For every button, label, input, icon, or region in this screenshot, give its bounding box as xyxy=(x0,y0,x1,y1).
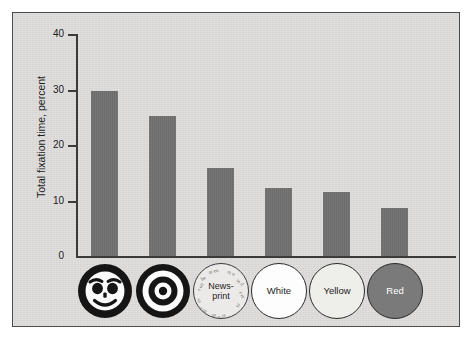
y-axis-line xyxy=(76,34,78,257)
y-tick-0: 0 xyxy=(13,256,76,258)
y-tick-label-10: 10 xyxy=(53,196,64,206)
category-icon-bullseye xyxy=(135,263,191,319)
white-label: White xyxy=(252,264,306,318)
bullseye-icon xyxy=(135,263,191,319)
category-icon-red: Red xyxy=(367,263,423,319)
newsprint-icon: at en rs o he in d t on a re es ni to as… xyxy=(193,263,249,319)
newsprint-label-line1: News- xyxy=(208,281,234,291)
newsprint-label-line2: print xyxy=(212,291,230,301)
chart-panel: Total fixation time, percent 40 30 20 10… xyxy=(12,12,460,327)
y-tick-40: 40 xyxy=(13,34,76,36)
face-icon xyxy=(77,263,133,319)
bar-red xyxy=(381,208,408,256)
bar-yellow xyxy=(323,192,350,256)
y-tick-10: 10 xyxy=(13,201,76,203)
y-tick-label-20: 20 xyxy=(53,140,64,150)
category-icon-white: White xyxy=(251,263,307,319)
bar-white xyxy=(265,188,292,256)
red-disc-icon: Red xyxy=(367,263,423,319)
y-tick-20: 20 xyxy=(13,145,76,147)
bar-newsprint xyxy=(207,168,234,256)
y-tick-label-0: 0 xyxy=(58,251,64,261)
bar-bullseye xyxy=(149,116,176,256)
figure: Total fixation time, percent 40 30 20 10… xyxy=(0,0,475,342)
bar-face xyxy=(91,91,118,256)
yellow-label: Yellow xyxy=(310,264,364,318)
y-axis-title: Total fixation time, percent xyxy=(35,42,47,232)
y-tick-label-40: 40 xyxy=(53,29,64,39)
category-icon-face xyxy=(77,263,133,319)
red-label: Red xyxy=(368,264,422,318)
plot-area: Total fixation time, percent 40 30 20 10… xyxy=(13,13,461,328)
category-icon-yellow: Yellow xyxy=(309,263,365,319)
y-tick-label-30: 30 xyxy=(53,85,64,95)
y-tick-30: 30 xyxy=(13,90,76,92)
yellow-disc-icon: Yellow xyxy=(309,263,365,319)
white-disc-icon: White xyxy=(251,263,307,319)
category-icon-newsprint: at en rs o he in d t on a re es ni to as… xyxy=(193,263,249,319)
newsprint-label: News- print xyxy=(194,264,248,318)
x-axis-line xyxy=(76,256,456,258)
